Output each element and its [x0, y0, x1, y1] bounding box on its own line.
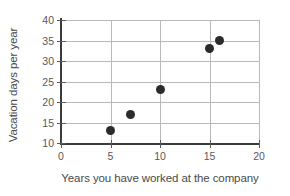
- y-axis-tick: [57, 82, 66, 83]
- data-point: [106, 126, 115, 135]
- plot-area: 1015202530354005101520: [61, 20, 259, 143]
- x-axis-tick: [259, 140, 260, 148]
- data-point: [205, 44, 214, 53]
- x-axis-tick-label: 10: [154, 151, 166, 162]
- y-axis-tick-label: 30: [42, 56, 54, 67]
- y-axis-tick: [57, 102, 66, 103]
- x-axis-tick: [61, 140, 62, 148]
- y-axis-tick-label: 35: [42, 35, 54, 46]
- y-axis-tick: [57, 20, 66, 21]
- gridline-vertical: [210, 20, 211, 143]
- scatter-chart: Vacation days per year Years you have wo…: [0, 0, 290, 196]
- y-axis-tick-label: 20: [42, 97, 54, 108]
- x-axis-tick-label: 20: [253, 151, 265, 162]
- gridline-vertical: [259, 20, 260, 143]
- y-axis-tick: [57, 123, 66, 124]
- y-axis-title: Vacation days per year: [4, 10, 22, 160]
- y-axis-tick-label: 15: [42, 117, 54, 128]
- x-axis-tick: [210, 140, 211, 148]
- x-axis-title: Years you have worked at the company: [40, 172, 280, 184]
- data-point: [126, 110, 135, 119]
- y-axis-tick-label: 25: [42, 76, 54, 87]
- x-axis-tick-label: 0: [58, 151, 64, 162]
- data-point: [215, 36, 224, 45]
- x-axis-tick-label: 15: [204, 151, 216, 162]
- gridline-vertical: [160, 20, 161, 143]
- y-axis-tick: [57, 61, 66, 62]
- data-point: [156, 85, 165, 94]
- y-axis-tick-label: 10: [42, 138, 54, 149]
- y-axis-tick: [57, 41, 66, 42]
- gridline-vertical: [111, 20, 112, 143]
- x-axis-tick-label: 5: [108, 151, 114, 162]
- x-axis-tick: [160, 140, 161, 148]
- x-axis-tick: [111, 140, 112, 148]
- y-axis-tick-label: 40: [42, 15, 54, 26]
